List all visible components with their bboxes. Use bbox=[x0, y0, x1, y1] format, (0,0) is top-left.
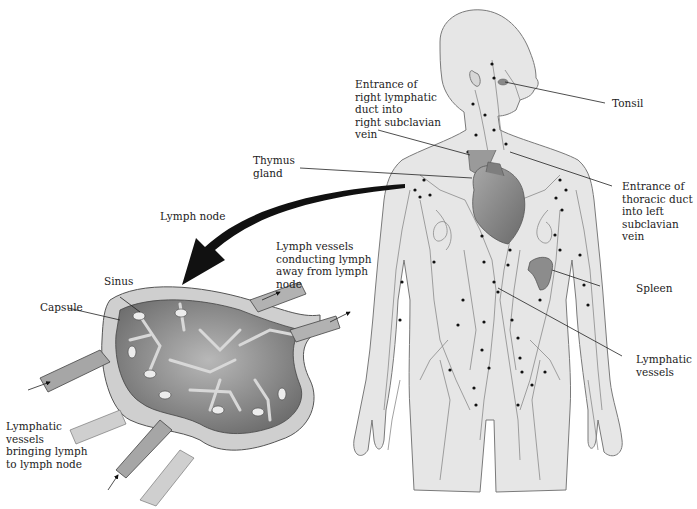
label-sinus: Sinus bbox=[104, 275, 133, 288]
lymphatic-system-diagram: Entrance of right lymphatic duct into ri… bbox=[0, 0, 697, 509]
label-lymph-node: Lymph node bbox=[160, 210, 226, 223]
label-right-lymphatic-duct: Entrance of right lymphatic duct into ri… bbox=[355, 78, 441, 141]
label-lymph-vessels-away: Lymph vessels conducting lymph away from… bbox=[276, 240, 371, 290]
label-thymus-gland: Thymus gland bbox=[253, 154, 295, 179]
label-lymphatic-vessels: Lymphatic vessels bbox=[636, 353, 692, 378]
lymph-node-detail bbox=[40, 282, 340, 506]
label-tonsil: Tonsil bbox=[612, 97, 643, 110]
label-lymphatic-vessels-bringing: Lymphatic vessels bringing lymph to lymp… bbox=[6, 420, 88, 470]
label-thoracic-duct: Entrance of thoracic duct into left subc… bbox=[622, 180, 693, 243]
label-capsule: Capsule bbox=[40, 301, 83, 314]
label-spleen: Spleen bbox=[636, 282, 672, 295]
